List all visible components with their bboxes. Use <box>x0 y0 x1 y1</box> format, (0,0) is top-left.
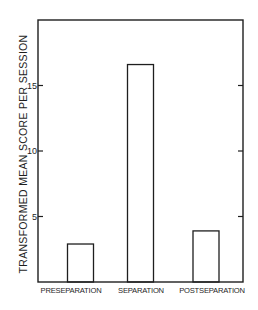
category-labels-group: PRESEPARATIONSEPARATIONPOSTSEPARATION <box>41 286 245 295</box>
y-axis-title: TRANSFORMED MEAN SCORE PER SESSION <box>17 35 29 274</box>
bars-group <box>68 65 220 282</box>
bar-postseparation <box>193 231 219 282</box>
category-label-separation: SEPARATION <box>118 286 164 295</box>
category-label-preseparation: PRESEPARATION <box>41 286 102 295</box>
category-label-postseparation: POSTSEPARATION <box>179 286 245 295</box>
bar-preseparation <box>68 244 94 282</box>
bar-chart: 51015 PRESEPARATIONSEPARATIONPOSTSEPARAT… <box>0 0 258 310</box>
y-tick-label: 5 <box>32 212 37 222</box>
bar-separation <box>128 65 154 282</box>
